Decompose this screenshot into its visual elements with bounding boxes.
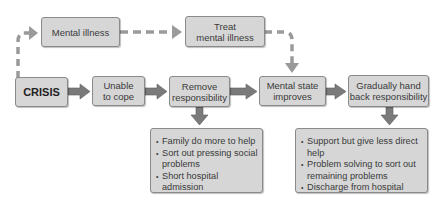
arrow-improves-to-handback — [326, 84, 346, 99]
arrow-handback-down — [381, 107, 398, 125]
arrow-crisis-to-unable — [68, 84, 90, 99]
node-crisis: CRISIS — [15, 77, 68, 107]
list-item: Family do more to help — [156, 136, 258, 148]
dashed-crisis-to-mental-illness — [18, 33, 30, 78]
list-item: Support but give less direct help — [301, 136, 423, 159]
remove-actions-box: Family do more to help Sort out pressing… — [150, 128, 263, 193]
node-label: Remove responsibility — [172, 81, 227, 103]
handback-actions-list: Support but give less direct help Proble… — [301, 136, 423, 194]
node-label: CRISIS — [23, 87, 60, 98]
node-mental-illness: Mental illness — [41, 17, 120, 47]
arrow-remove-down — [191, 107, 208, 125]
remove-actions-list: Family do more to help Sort out pressing… — [156, 136, 258, 194]
list-item: Short hospital admission — [156, 171, 258, 194]
node-label: Gradually hand back responsibility — [350, 80, 428, 102]
arrowhead-to-improves — [285, 63, 299, 73]
arrow-unable-to-remove — [145, 84, 167, 99]
arrowhead-to-treat — [172, 25, 182, 39]
list-item: Discharge from hospital — [301, 182, 423, 194]
arrowhead-to-mental-illness — [29, 26, 38, 40]
node-label: Mental state improves — [267, 80, 319, 102]
handback-actions-box: Support but give less direct help Proble… — [295, 128, 428, 193]
arrow-remove-to-improves — [230, 84, 257, 99]
node-remove-responsibility: Remove responsibility — [169, 76, 230, 107]
list-item: Sort out pressing socialproblems — [156, 148, 258, 171]
dashed-treat-to-improves — [265, 32, 292, 64]
node-unable-to-cope: Unable to cope — [92, 76, 145, 106]
node-mental-state-improves: Mental state improves — [259, 76, 326, 106]
node-treat-mental-illness: Treat mental illness — [185, 16, 265, 47]
node-label: Treat mental illness — [196, 21, 254, 43]
list-item: Problem solving to sort outremaining pro… — [301, 159, 423, 182]
node-label: Mental illness — [52, 27, 110, 38]
node-gradually-hand-back: Gradually hand back responsibility — [348, 75, 429, 107]
node-label: Unable to cope — [103, 80, 134, 102]
